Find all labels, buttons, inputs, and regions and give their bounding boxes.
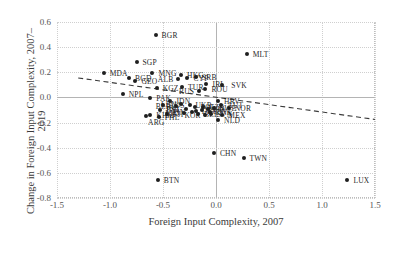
data-point-label: GEO <box>141 76 157 85</box>
data-point-label: CHN <box>220 149 236 158</box>
data-point-label: NLD <box>224 116 240 125</box>
data-point <box>179 73 183 77</box>
x-tick-label: 1.5 <box>369 200 380 210</box>
data-point <box>135 60 139 64</box>
y-tick-label: 0.6 <box>18 17 51 27</box>
data-point-label: MLT <box>253 50 269 59</box>
data-point <box>121 92 125 96</box>
data-point-label: RUS <box>179 87 194 96</box>
data-point <box>127 76 131 80</box>
data-point <box>185 76 189 80</box>
data-point <box>156 178 160 182</box>
y-tick-label: 0.0 <box>18 92 51 102</box>
data-point <box>212 151 216 155</box>
data-point <box>133 79 137 83</box>
y-tick-label: -0.6 <box>18 168 51 178</box>
data-point <box>148 113 152 117</box>
scatter-chart-figure: Change in Foreign Input Complexity, 2007… <box>0 0 395 271</box>
data-point <box>148 96 152 100</box>
x-axis-title: Foreign Input Complexity, 2007 <box>57 216 375 227</box>
data-point <box>242 156 246 160</box>
x-tick-label: -1.5 <box>50 200 64 210</box>
data-point-label: BGR <box>162 31 178 40</box>
data-point <box>188 103 192 107</box>
y-tick-label: 0.2 <box>18 67 51 77</box>
y-tick-label: -0.8 <box>18 193 51 203</box>
data-point <box>176 77 180 81</box>
data-point-label: SVK <box>231 81 247 90</box>
y-tick-label: -0.4 <box>18 143 51 153</box>
data-point-label: ROU <box>211 84 227 93</box>
data-point <box>203 113 207 117</box>
data-point-label: NPL <box>129 89 144 98</box>
data-point-label: ARG <box>148 118 164 127</box>
gridline-vertical <box>375 22 376 198</box>
data-point <box>216 118 220 122</box>
data-point-label: TWN <box>250 153 268 162</box>
data-point-label: KGZ <box>163 84 179 93</box>
gridline-horizontal <box>57 198 375 199</box>
data-point <box>204 82 208 86</box>
data-point <box>102 71 106 75</box>
data-point-label: LUX <box>353 175 369 184</box>
x-tick-label: -1.0 <box>103 200 117 210</box>
data-point <box>197 89 201 93</box>
x-tick-label: 1.0 <box>316 200 327 210</box>
data-point <box>154 33 158 37</box>
data-point <box>345 178 349 182</box>
plot-area: BGRMLTSGPMDAMNGBGDGEOHKGSRBCYPALBKGZTURI… <box>57 22 375 198</box>
data-point <box>203 87 207 91</box>
data-point <box>157 115 161 119</box>
data-point-label: PHL <box>165 113 180 122</box>
y-tick-label: -0.2 <box>18 118 51 128</box>
data-point <box>209 112 213 116</box>
x-tick-label: 0.5 <box>263 200 274 210</box>
data-point-label: BTN <box>164 175 180 184</box>
data-point <box>155 86 159 90</box>
x-tick-label: -0.5 <box>156 200 170 210</box>
data-point-label: KOR <box>184 111 200 120</box>
y-tick-label: 0.4 <box>18 42 51 52</box>
x-tick-label: 0.0 <box>210 200 221 210</box>
data-point-label: MDA <box>110 68 128 77</box>
data-point <box>245 52 249 56</box>
data-point-label: SGP <box>143 57 157 66</box>
